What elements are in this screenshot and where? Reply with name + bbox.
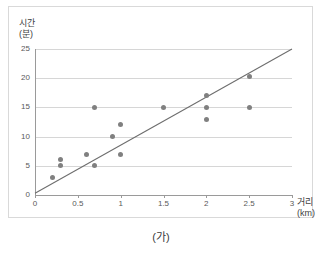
data-point [110,134,115,139]
trend-line [35,49,292,195]
y-axis-title: 시간 (분) [19,18,35,39]
y-tick-label: 5 [26,162,30,170]
x-tick-label: 2.5 [244,200,255,208]
data-point [118,152,123,157]
y-tick-label: 0 [26,191,30,199]
x-axis-title: 거리 (km) [297,197,315,218]
y-axis-title-unit: (분) [19,29,35,40]
data-point [50,175,55,180]
data-point [84,152,89,157]
x-axis-title-unit: (km) [297,208,315,219]
y-tick-label: 10 [21,133,30,141]
x-axis-title-text: 거리 [297,197,315,208]
data-point [161,105,166,110]
y-tick-label: 20 [21,74,30,82]
x-tick-label: 0 [33,200,37,208]
chart-screenshot: 시간 (분) 거리 (km) 0510152025 00.511.522.53 … [0,0,322,258]
y-axis-title-text: 시간 [19,18,35,29]
x-tick-label: 0.5 [72,200,83,208]
x-tick-mark [292,195,293,198]
data-point [247,105,252,110]
y-tick-label: 15 [21,103,30,111]
data-point [204,105,209,110]
y-tick-label: 25 [21,45,30,53]
x-axis-line [35,195,292,196]
data-point [204,117,209,122]
plot-area: 0510152025 00.511.522.53 [35,49,292,195]
data-point [247,74,252,79]
x-tick-label: 3 [290,200,294,208]
x-tick-label: 1.5 [158,200,169,208]
figure-caption: (가) [0,228,322,244]
x-tick-label: 1 [118,200,122,208]
x-tick-label: 2 [204,200,208,208]
chart-panel: 시간 (분) 거리 (km) 0510152025 00.511.522.53 [8,6,313,218]
